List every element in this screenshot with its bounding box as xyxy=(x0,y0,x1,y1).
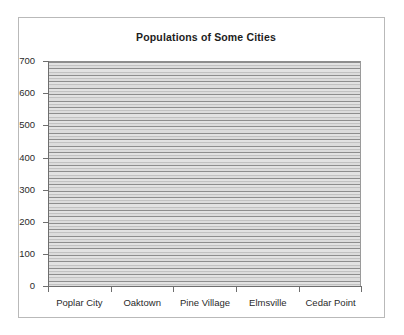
y-axis-label: 100 xyxy=(9,249,35,259)
x-axis-tick xyxy=(299,287,300,292)
y-axis-label: 0 xyxy=(9,281,35,291)
chart-frame: Populations of Some Cities 700 600 500 4… xyxy=(18,17,385,318)
x-axis-tick xyxy=(48,287,49,292)
y-axis-line xyxy=(48,61,49,287)
x-axis-label-oaktown: Oaktown xyxy=(111,295,174,311)
y-axis-label: 300 xyxy=(9,185,35,195)
y-axis-tick xyxy=(43,222,48,223)
x-axis-tick xyxy=(173,287,174,292)
x-axis-line xyxy=(48,286,362,287)
y-axis-tick xyxy=(43,254,48,255)
y-axis-tick xyxy=(43,93,48,94)
y-axis-tick xyxy=(43,125,48,126)
chart-title: Populations of Some Cities xyxy=(49,31,363,43)
x-axis-tick xyxy=(111,287,112,292)
x-axis-label-cedar-point: Cedar Point xyxy=(299,295,362,311)
y-axis-label: 200 xyxy=(9,217,35,227)
y-axis-tick xyxy=(43,61,48,62)
y-axis-label: 500 xyxy=(9,120,35,130)
y-axis-tick xyxy=(43,158,48,159)
y-axis-label: 600 xyxy=(9,88,35,98)
x-axis-labels: Poplar City Oaktown Pine Village Elmsvil… xyxy=(48,295,362,311)
x-axis-label-pine-village: Pine Village xyxy=(174,295,237,311)
x-axis-tick xyxy=(236,287,237,292)
x-axis-label-poplar-city: Poplar City xyxy=(48,295,111,311)
y-axis-label: 700 xyxy=(9,56,35,66)
plot-area xyxy=(48,61,361,286)
x-axis-label-elmsville: Elmsville xyxy=(236,295,299,311)
x-axis-tick xyxy=(361,287,362,292)
y-axis-label: 400 xyxy=(9,153,35,163)
y-axis-tick xyxy=(43,190,48,191)
